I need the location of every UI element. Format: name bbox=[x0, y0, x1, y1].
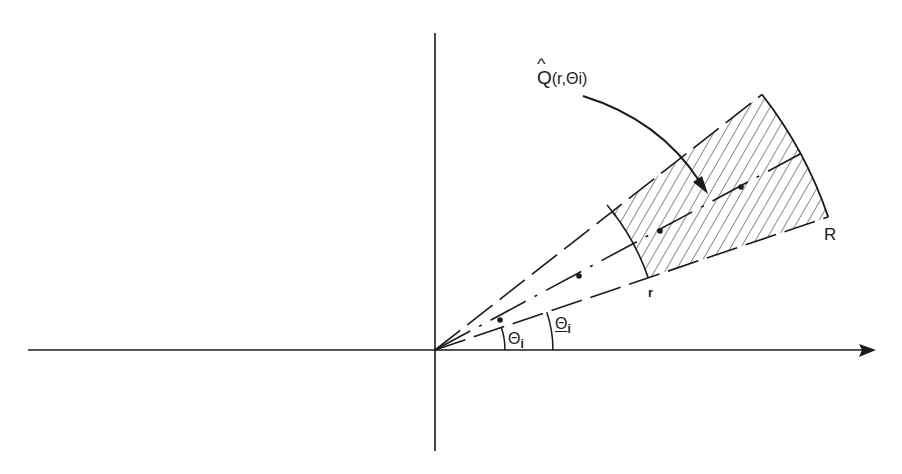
sample-point bbox=[497, 317, 503, 323]
region-label-args: (r,Θi) bbox=[552, 70, 588, 87]
region-label-symbol: Q bbox=[537, 68, 552, 87]
polar-sector-diagram bbox=[0, 0, 902, 474]
sample-point bbox=[738, 184, 744, 190]
theta-i-label: Θi bbox=[508, 331, 524, 347]
theta-i-underline-arc bbox=[547, 312, 553, 350]
theta-symbol-underlined: Θ bbox=[555, 315, 567, 332]
theta-symbol: Θ bbox=[508, 330, 520, 347]
theta-i-underline-label: Θi bbox=[555, 316, 571, 332]
theta-subscript: i bbox=[567, 322, 570, 336]
sample-point bbox=[576, 273, 582, 279]
theta-i-arc bbox=[501, 328, 505, 350]
region-label: Q(r,Θi) bbox=[537, 68, 587, 87]
inner-radius-label: r bbox=[648, 286, 653, 299]
theta-subscript: i bbox=[520, 337, 523, 351]
center-ray bbox=[435, 154, 801, 351]
outer-radius-label: R bbox=[824, 226, 836, 243]
sample-point bbox=[657, 228, 663, 234]
